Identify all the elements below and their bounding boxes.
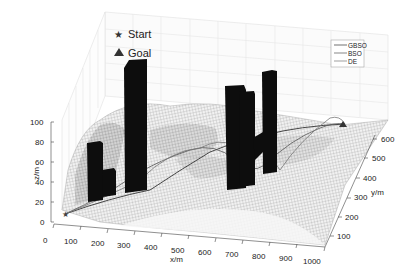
svg-text:200: 200 [345,213,359,222]
svg-text:300: 300 [354,193,368,202]
legend: GBSO BSO DE [331,40,367,67]
svg-text:800: 800 [252,252,266,261]
svg-text:0: 0 [43,236,48,245]
svg-text:600: 600 [381,135,395,144]
legend-de: DE [348,58,358,65]
svg-text:20: 20 [35,198,44,207]
start-marker: ★ [62,210,69,219]
svg-text:300: 300 [117,241,131,250]
svg-text:80: 80 [35,138,44,147]
goal-label: Goal [128,47,151,59]
svg-text:200: 200 [91,239,105,248]
z-axis: 100 80 60 40 20 0 z/m [30,118,54,227]
legend-gbso: GBSO [348,42,367,49]
obstacle-2 [102,168,116,197]
y-axis-label: y/m [371,188,384,197]
svg-text:500: 500 [372,154,386,163]
obstacle-5 [239,91,255,187]
z-axis-label: z/m [32,167,41,180]
svg-text:900: 900 [279,254,293,263]
legend-bso: BSO [348,50,362,57]
svg-text:700: 700 [225,250,239,259]
svg-text:400: 400 [363,174,377,183]
svg-text:60: 60 [35,158,44,167]
x-axis-label: x/m [170,255,183,264]
start-label: Start [128,28,151,40]
svg-text:★: ★ [62,210,69,219]
star-icon: ★ [114,29,123,40]
svg-text:500: 500 [171,246,185,255]
svg-text:100: 100 [64,237,78,246]
svg-text:400: 400 [144,243,158,252]
svg-text:100: 100 [30,118,44,127]
obstacle-6 [262,70,277,174]
svg-text:1000: 1000 [303,257,321,266]
obstacle-3 [124,59,147,193]
svg-text:100: 100 [337,232,351,241]
terrain-path-chart: ★ ★ Start Goal GBSO BSO DE 100 80 60 [0,0,413,275]
obstacle-1 [87,141,103,202]
svg-text:0: 0 [40,218,45,227]
svg-text:600: 600 [198,248,212,257]
